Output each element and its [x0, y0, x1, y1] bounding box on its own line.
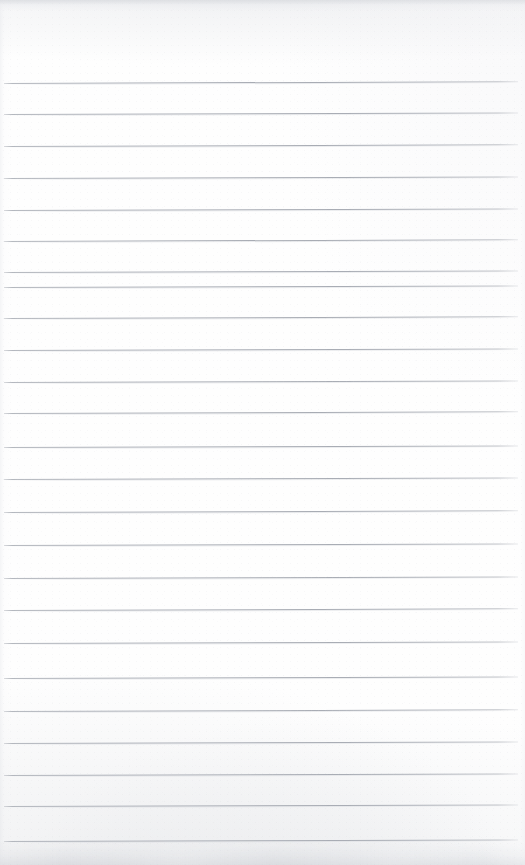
paper-sheet	[0, 0, 525, 865]
scanned-page	[0, 0, 525, 865]
